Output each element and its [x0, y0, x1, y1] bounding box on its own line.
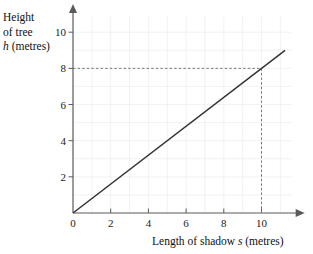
y-tick-label: 6: [61, 99, 67, 111]
x-tick-label: 6: [183, 217, 189, 229]
tick-labels: 0246810246810: [55, 26, 268, 229]
axes: [69, 4, 305, 217]
x-tick-label: 4: [146, 217, 152, 229]
y-tick-label: 8: [61, 62, 67, 74]
grid-lines: [73, 16, 292, 213]
y-axis-arrow-icon: [69, 4, 77, 13]
y-tick-label: 10: [55, 26, 67, 38]
x-tick-label: 2: [108, 217, 114, 229]
x-tick-label: 10: [256, 217, 268, 229]
plot-area: 0246810246810: [0, 0, 313, 254]
data-series: [73, 50, 285, 213]
x-tick-label: 8: [221, 217, 227, 229]
y-tick-label: 4: [61, 135, 67, 147]
y-tick-label: 2: [61, 171, 67, 183]
x-axis-arrow-icon: [296, 209, 305, 217]
series-line: [73, 50, 285, 213]
chart-screenshot: Height of tree h (metres) Length of shad…: [0, 0, 313, 254]
origin-label: 0: [70, 217, 76, 229]
